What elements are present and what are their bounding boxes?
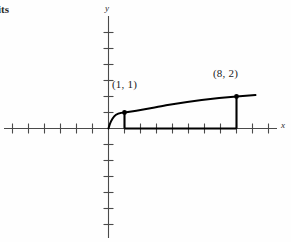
point-label-1-1: (1, 1) bbox=[112, 79, 137, 90]
cube-root-curve bbox=[109, 95, 256, 129]
bounded-region-outline bbox=[125, 97, 237, 129]
point-marker-8-2 bbox=[234, 94, 239, 99]
y-axis-label: y bbox=[105, 4, 109, 13]
point-label-8-2: (8, 2) bbox=[213, 68, 238, 79]
caption-fragment: its bbox=[0, 4, 9, 15]
coordinate-plot bbox=[0, 0, 291, 242]
point-marker-1-1 bbox=[122, 110, 127, 115]
x-axis-label: x bbox=[281, 121, 285, 130]
figure-container: its y x (1, 1) (8, 2) bbox=[0, 0, 291, 242]
